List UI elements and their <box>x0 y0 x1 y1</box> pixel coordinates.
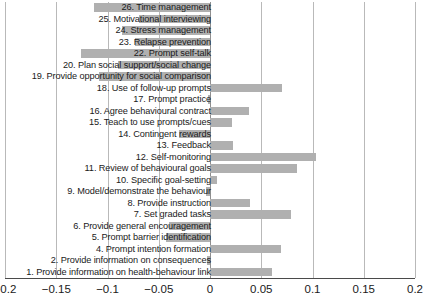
category-label-wrap: 20. Plan social support/social change <box>0 60 211 72</box>
bar-row: 14. Contingent rewards <box>0 129 410 141</box>
bar <box>210 268 272 277</box>
category-label-wrap: 9. Model/demonstrate the behaviour <box>0 186 211 198</box>
bar <box>210 118 232 127</box>
category-label-wrap: 24. Stress management <box>0 25 211 37</box>
category-label-wrap: 18. Use of follow-up prompts <box>0 83 211 95</box>
category-label: 24. Stress management <box>116 26 211 35</box>
x-tick-label: −0.2 <box>0 283 16 295</box>
category-label: 4. Prompt intention formation <box>96 245 211 254</box>
bar-row: 25. Motivational interviewing <box>0 14 410 26</box>
category-label: 1. Provide information on health-behavio… <box>26 268 211 277</box>
category-label: 8. Provide instruction <box>127 199 211 208</box>
category-label-wrap: 15. Teach to use prompts/cues <box>0 117 211 129</box>
category-label: 16. Agree behavioural contract <box>89 107 211 116</box>
category-label-wrap: 5. Prompt barrier identification <box>0 232 211 244</box>
category-label: 9. Model/demonstrate the behaviour <box>67 187 211 196</box>
bar <box>210 199 250 208</box>
category-label-wrap: 22. Prompt self-talk <box>0 48 211 60</box>
category-label: 14. Contingent rewards <box>118 130 211 139</box>
category-label-wrap: 8. Provide instruction <box>0 198 211 210</box>
bar-row: 5. Prompt barrier identification <box>0 232 410 244</box>
bar <box>210 141 233 150</box>
bar-row: 10. Specific goal-setting <box>0 175 410 187</box>
x-tick-label: 0.15 <box>353 283 375 295</box>
category-label: 13. Feedback <box>157 141 211 150</box>
bar-row: 18. Use of follow-up prompts <box>0 83 410 95</box>
category-label: 18. Use of follow-up prompts <box>97 84 211 93</box>
x-tick-label: 0.05 <box>250 283 272 295</box>
bar-row: 13. Feedback <box>0 140 410 152</box>
category-label-wrap: 6. Provide general encouragement <box>0 221 211 233</box>
bar-row: 6. Provide general encouragement <box>0 221 410 233</box>
category-label-wrap: 14. Contingent rewards <box>0 129 211 141</box>
x-tick-label: −0.15 <box>42 283 71 295</box>
bar <box>210 245 281 254</box>
category-label-wrap: 7. Set graded tasks <box>0 209 211 221</box>
bar-row: 8. Provide instruction <box>0 198 410 210</box>
bar-row: 19. Provide opportunity for social compa… <box>0 71 410 83</box>
bar-row: 11. Review of behavioural goals <box>0 163 410 175</box>
category-label-wrap: 19. Provide opportunity for social compa… <box>0 71 211 83</box>
x-tick-label: 0.1 <box>305 283 321 295</box>
bar-row: 20. Plan social support/social change <box>0 60 410 72</box>
bar <box>210 210 291 219</box>
category-label: 22. Prompt self-talk <box>134 49 211 58</box>
category-label-wrap: 13. Feedback <box>0 140 211 152</box>
category-label: 10. Specific goal-setting <box>116 176 211 185</box>
bar <box>210 84 282 93</box>
category-label-wrap: 1. Provide information on health-behavio… <box>0 267 211 279</box>
category-label: 15. Teach to use prompts/cues <box>89 118 211 127</box>
category-label: 2. Provide information on consequences <box>51 256 211 265</box>
x-axis-line <box>5 278 415 279</box>
bar <box>210 164 297 173</box>
x-tick-label: −0.1 <box>96 283 119 295</box>
category-label-wrap: 2. Provide information on consequences <box>0 255 211 267</box>
bar-row: 4. Prompt intention formation <box>0 244 410 256</box>
category-label: 5. Prompt barrier identification <box>92 233 211 242</box>
x-tick-label: 0.2 <box>407 283 423 295</box>
category-label: 26. Time management <box>121 3 211 12</box>
bar-row: 1. Provide information on health-behavio… <box>0 267 410 279</box>
bar <box>210 153 316 162</box>
category-label-wrap: 26. Time management <box>0 2 211 14</box>
x-tick-label: 0 <box>207 283 213 295</box>
category-label: 6. Provide general encouragement <box>73 222 211 231</box>
bar-row: 24. Stress management <box>0 25 410 37</box>
category-label: 25. Motivational interviewing <box>98 15 211 24</box>
bar <box>210 107 249 116</box>
category-label-wrap: 25. Motivational interviewing <box>0 14 211 26</box>
category-label-wrap: 12. Self-monitoring <box>0 152 211 164</box>
category-label-wrap: 4. Prompt intention formation <box>0 244 211 256</box>
category-label: 11. Review of behavioural goals <box>85 164 211 173</box>
bar-row: 17. Prompt practice <box>0 94 410 106</box>
category-label-wrap: 17. Prompt practice <box>0 94 211 106</box>
bar-row: 16. Agree behavioural contract <box>0 106 410 118</box>
x-tick-label: −0.05 <box>144 283 173 295</box>
category-label: 20. Plan social support/social change <box>63 61 211 70</box>
category-label: 17. Prompt practice <box>133 95 211 104</box>
bar-row: 23. Relapse prevention <box>0 37 410 49</box>
category-label: 7. Set graded tasks <box>134 210 211 219</box>
bar-row: 15. Teach to use prompts/cues <box>0 117 410 129</box>
category-label-wrap: 16. Agree behavioural contract <box>0 106 211 118</box>
bar-row: 12. Self-monitoring <box>0 152 410 164</box>
bar-row: 7. Set graded tasks <box>0 209 410 221</box>
bar-row: 26. Time management <box>0 2 410 14</box>
category-label-wrap: 11. Review of behavioural goals <box>0 163 211 175</box>
bar-row: 22. Prompt self-talk <box>0 48 410 60</box>
category-label-wrap: 10. Specific goal-setting <box>0 175 211 187</box>
category-label: 12. Self-monitoring <box>136 153 211 162</box>
bar <box>210 176 217 185</box>
category-label: 23. Relapse prevention <box>119 38 211 47</box>
bar-row: 9. Model/demonstrate the behaviour <box>0 186 410 198</box>
category-label: 19. Provide opportunity for social compa… <box>32 72 211 81</box>
category-label-wrap: 23. Relapse prevention <box>0 37 211 49</box>
bar-row: 2. Provide information on consequences <box>0 255 410 267</box>
gridline <box>415 2 416 278</box>
